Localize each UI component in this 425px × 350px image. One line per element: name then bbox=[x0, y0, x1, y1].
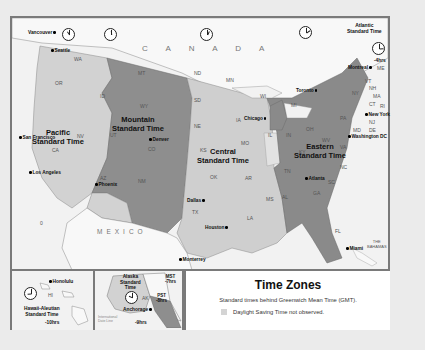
state-OH: OH bbox=[306, 126, 314, 132]
country-canada: C A N A D A bbox=[142, 44, 272, 53]
state-ND: ND bbox=[194, 70, 201, 76]
dateline-label: International Date Line bbox=[98, 315, 117, 323]
zone-label-pst: PST -8hrs bbox=[156, 293, 167, 303]
state-AR: AR bbox=[245, 175, 252, 181]
state-NV: NV bbox=[77, 133, 84, 139]
state-WA: WA bbox=[74, 56, 82, 62]
state-DE: DE bbox=[369, 127, 376, 133]
state-TX: TX bbox=[192, 209, 198, 215]
hawaii-inset: Honolulu HI Hawaii-Aleutian Standard Tim… bbox=[12, 271, 95, 330]
state-WI: WI bbox=[260, 93, 266, 99]
country-bahamas: THE BAHAMAS bbox=[367, 240, 387, 249]
state-WV: WV bbox=[322, 137, 330, 143]
state-MO: MO bbox=[241, 140, 249, 146]
state-ME: ME bbox=[377, 65, 385, 71]
clock-icon-pacific bbox=[62, 28, 75, 41]
alaska-offset: -9hrs bbox=[135, 320, 147, 325]
state-NE: NE bbox=[194, 123, 201, 129]
city-honolulu: Honolulu bbox=[48, 279, 73, 284]
legend-panel: Time Zones Standard times behind Greenwi… bbox=[184, 271, 390, 330]
state-KS: KS bbox=[200, 147, 207, 153]
city-seattle: Seattle bbox=[50, 48, 70, 53]
zone-label-atlantic: Atlantic Standard Time bbox=[347, 22, 382, 34]
state-UT: UT bbox=[110, 132, 117, 138]
city-los-angeles: Los Angeles bbox=[28, 170, 61, 175]
city-houston: Houston bbox=[205, 225, 229, 230]
city-chicago: Chicago bbox=[244, 116, 267, 121]
state-AK: AK bbox=[142, 295, 149, 301]
state-OR: OR bbox=[55, 80, 63, 86]
city-phoenix: Phoenix bbox=[94, 182, 117, 187]
state-NM: NM bbox=[138, 178, 146, 184]
clock-icon-atlantic bbox=[372, 42, 385, 55]
city-new-york: New York bbox=[364, 112, 390, 117]
state-SD: SD bbox=[194, 97, 201, 103]
legend-key-no-dst: Daylight Saving Time not observed. bbox=[221, 309, 324, 315]
zone-label-hawaii: Hawaii-Aleutian Standard Time bbox=[24, 306, 60, 317]
state-IA: IA bbox=[236, 117, 241, 123]
state-KY: KY bbox=[299, 149, 306, 155]
city-vancouver: Vancouver bbox=[28, 30, 57, 35]
state-WY: WY bbox=[140, 103, 148, 109]
legend-title: Time Zones bbox=[186, 278, 390, 292]
zone-label-alaska: Alaska Standard Time bbox=[120, 274, 141, 291]
state-AZ: AZ bbox=[100, 175, 106, 181]
zone-label-mountain: Mountain Standard Time bbox=[112, 116, 164, 133]
state-MD: MD bbox=[353, 127, 361, 133]
state-VT: VT bbox=[365, 78, 371, 84]
state-NJ: NJ bbox=[369, 119, 375, 125]
state-MA: MA bbox=[373, 93, 381, 99]
state-FL: FL bbox=[335, 228, 341, 234]
state-MI: MI bbox=[291, 102, 297, 108]
clock-icon-mountain bbox=[104, 28, 117, 41]
state-LA: LA bbox=[247, 215, 253, 221]
city-anchorage: Anchorage bbox=[123, 307, 153, 312]
state-OK: OK bbox=[210, 174, 217, 180]
state-MS: MS bbox=[266, 196, 274, 202]
city-miami: Miami bbox=[345, 246, 363, 251]
ocean-zero: 0 bbox=[40, 220, 43, 226]
legend-key-label: Daylight Saving Time not observed. bbox=[233, 309, 324, 315]
city-montreal: Montreal bbox=[348, 65, 373, 70]
city-dallas: Dallas bbox=[187, 198, 206, 203]
clock-icon-hawaii bbox=[24, 287, 37, 300]
state-MN: MN bbox=[226, 77, 234, 83]
country-mexico: MEXICO bbox=[97, 228, 147, 235]
state-RI: RI bbox=[380, 103, 385, 109]
zone-label-mst: MST -7hrs bbox=[165, 274, 176, 284]
state-MT: MT bbox=[138, 70, 145, 76]
state-NY: NY bbox=[352, 90, 359, 96]
state-ID: ID bbox=[100, 93, 105, 99]
clock-icon-central bbox=[200, 28, 213, 41]
state-GA: GA bbox=[313, 190, 320, 196]
state-TN: TN bbox=[284, 168, 291, 174]
state-CO: CO bbox=[148, 146, 156, 152]
city-washington: Washington DC bbox=[347, 134, 387, 139]
city-toronto: Toronto bbox=[296, 88, 318, 93]
city-monterrey: Monterrey bbox=[178, 257, 206, 262]
state-NH: NH bbox=[369, 85, 376, 91]
state-CT: CT bbox=[369, 101, 376, 107]
state-IN: IN bbox=[286, 132, 291, 138]
state-PA: PA bbox=[340, 115, 346, 121]
city-atlanta: Atlanta bbox=[304, 176, 325, 181]
state-CA: CA bbox=[52, 147, 59, 153]
state-SC: SC bbox=[328, 179, 335, 185]
clock-icon-alaska bbox=[125, 291, 138, 304]
state-VA: VA bbox=[340, 144, 346, 150]
state-IL: IL bbox=[268, 132, 272, 138]
legend-subtitle: Standard times behind Greenwich Mean Tim… bbox=[186, 297, 390, 303]
alaska-inset: Alaska Standard Time MST -7hrs PST -8hrs… bbox=[95, 271, 184, 330]
atlantic-offset: -4hrs bbox=[374, 58, 386, 63]
state-AL: AL bbox=[282, 194, 288, 200]
hawaii-offset: -10hrs bbox=[45, 320, 59, 325]
no-dst-swatch bbox=[221, 309, 227, 315]
city-san-francisco: San Francisco bbox=[18, 135, 55, 140]
state-NC: NC bbox=[340, 164, 347, 170]
clock-icon-eastern bbox=[299, 26, 312, 39]
state-HI: HI bbox=[48, 292, 53, 298]
city-denver: Denver bbox=[148, 137, 169, 142]
